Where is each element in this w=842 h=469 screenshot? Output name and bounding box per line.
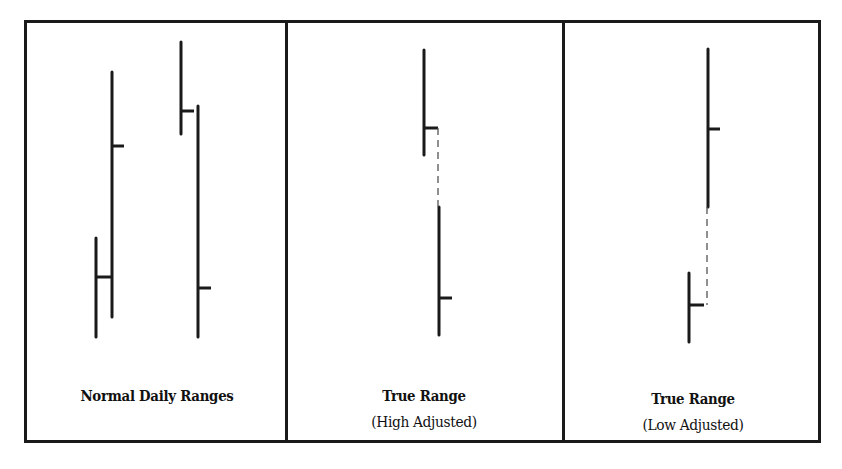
diagram-frame [24, 20, 821, 443]
panel-title: Normal Daily Ranges [65, 382, 249, 409]
panel-subtitle: (Low Adjusted) [610, 412, 776, 439]
panel-label-true-range-low-adjusted: True Range (Low Adjusted) [610, 385, 776, 439]
panel-label-true-range-high-adjusted: True Range (High Adjusted) [341, 382, 507, 436]
panel-title: True Range [610, 385, 776, 412]
panel-subtitle: (High Adjusted) [341, 409, 507, 436]
panel-title: True Range [341, 382, 507, 409]
panel-divider-2 [562, 20, 565, 443]
panel-label-normal-daily-ranges: Normal Daily Ranges [65, 382, 249, 409]
panel-divider-1 [285, 20, 288, 443]
